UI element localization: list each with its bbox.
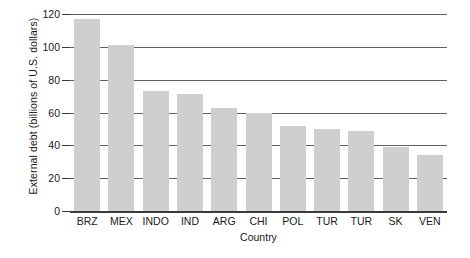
y-axis-tick-label: 0: [34, 206, 60, 217]
y-axis-tick-label: 100: [34, 42, 60, 53]
bar: [348, 131, 374, 211]
bar: [74, 19, 100, 211]
bar-chart: External debt (billions of U.S. dollars)…: [0, 0, 470, 258]
y-axis-tick-label: 40: [34, 140, 60, 151]
y-axis-tick-label: 80: [34, 74, 60, 85]
y-axis-tick-mark: [62, 178, 70, 179]
bar: [417, 155, 443, 211]
bar: [211, 108, 237, 211]
y-axis-tick-label: 60: [34, 107, 60, 118]
bar: [143, 91, 169, 211]
bars-series: [70, 14, 447, 211]
bar: [177, 94, 203, 211]
bar: [280, 126, 306, 211]
bar: [383, 147, 409, 211]
y-axis-tick-mark: [62, 211, 70, 212]
plot-area: [70, 14, 447, 211]
x-axis-category-labels: BRZMEXINDOINDARGCHIPOLTURTURSKVEN: [70, 214, 447, 230]
bar: [314, 129, 340, 211]
y-axis-tick-mark: [62, 145, 70, 146]
x-axis-title: Country: [70, 231, 447, 243]
y-axis-tick-mark: [62, 47, 70, 48]
y-axis-tick-labels: 020406080100120: [30, 0, 60, 258]
bar: [246, 113, 272, 212]
gridline: [70, 211, 447, 213]
y-axis-tick-mark: [62, 113, 70, 114]
y-axis-tick-mark: [62, 80, 70, 81]
y-axis-tick-label: 20: [34, 173, 60, 184]
bar: [108, 45, 134, 211]
y-axis-tick-mark: [62, 14, 70, 15]
y-axis-tick-label: 120: [34, 9, 60, 20]
x-axis-tick-label: VEN: [408, 214, 452, 228]
